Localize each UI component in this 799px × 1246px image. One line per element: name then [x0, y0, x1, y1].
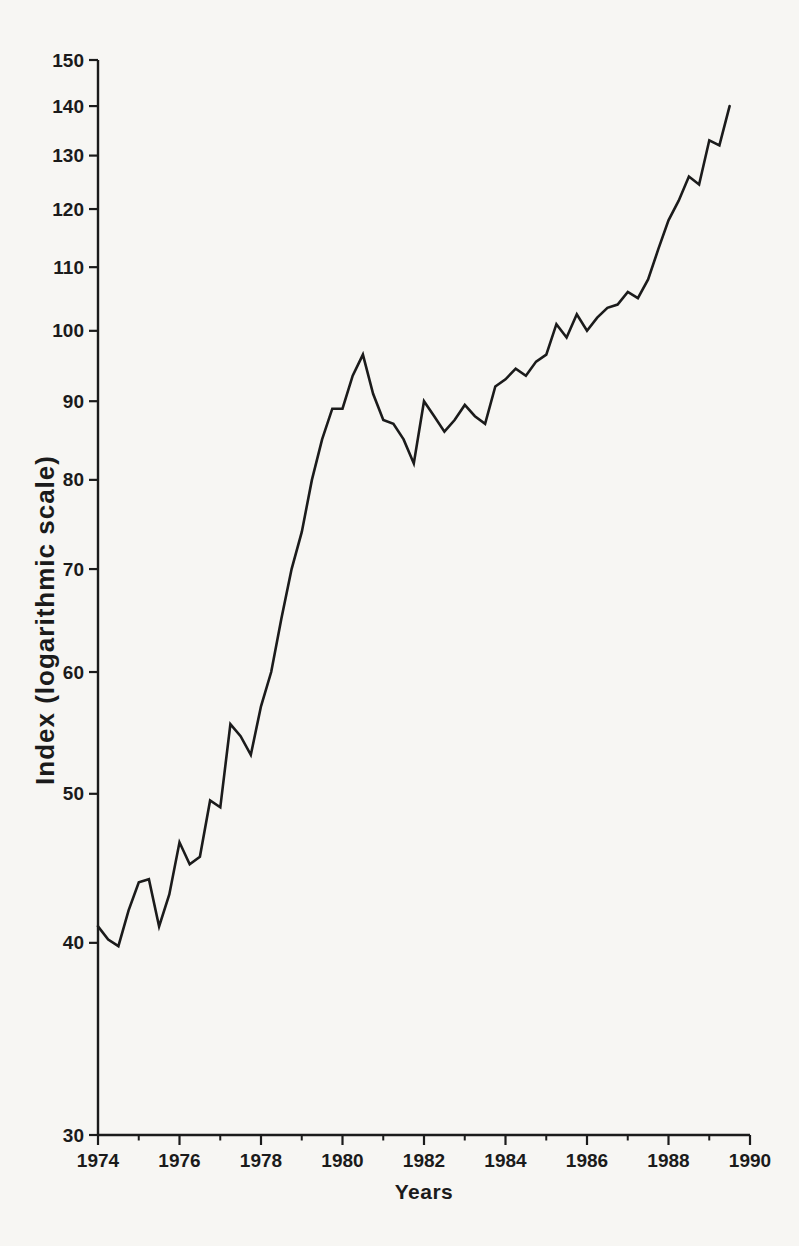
y-tick-label: 140: [52, 96, 84, 117]
y-tick-label: 130: [52, 145, 84, 166]
index-line: [98, 106, 730, 946]
y-tick-label: 110: [53, 257, 84, 278]
series-layer: [98, 106, 730, 946]
x-tick-label: 1974: [77, 1150, 120, 1171]
y-tick-label: 70: [63, 559, 84, 580]
y-tick-label: 40: [63, 932, 84, 953]
x-tick-label: 1988: [647, 1150, 689, 1171]
tick-labels-layer: 3040506070809010011012013014015019741976…: [52, 50, 771, 1172]
y-tick-label: 150: [52, 50, 84, 71]
x-tick-label: 1986: [566, 1150, 608, 1171]
y-tick-label: 50: [63, 783, 84, 804]
y-tick-label: 120: [52, 199, 84, 220]
x-tick-label: 1978: [240, 1150, 282, 1171]
y-tick-label: 30: [63, 1125, 84, 1146]
x-axis-label: Years: [395, 1180, 454, 1203]
y-tick-label: 80: [63, 469, 84, 490]
x-tick-label: 1990: [729, 1150, 771, 1171]
x-tick-label: 1982: [403, 1150, 445, 1171]
index-line-chart: 3040506070809010011012013014015019741976…: [0, 0, 799, 1246]
x-tick-label: 1980: [321, 1150, 363, 1171]
x-tick-label: 1976: [158, 1150, 200, 1171]
scanned-page: 3040506070809010011012013014015019741976…: [0, 0, 799, 1246]
y-tick-label: 90: [63, 391, 84, 412]
y-tick-label: 100: [52, 320, 84, 341]
y-tick-label: 60: [63, 662, 84, 683]
y-axis-label: Index (logarithmic scale): [30, 455, 60, 785]
x-tick-label: 1984: [484, 1150, 527, 1171]
axes-layer: [89, 60, 750, 1145]
